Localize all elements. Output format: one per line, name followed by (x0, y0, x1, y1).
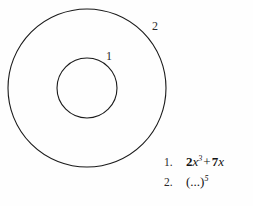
outer-circle-label: 2 (152, 20, 158, 32)
formula-row: 1. 2x3+7x (164, 154, 253, 174)
inner-circle-label: 1 (106, 50, 112, 62)
formula-expression: 2x3+7x (186, 154, 224, 170)
formula-expression: (...)5 (186, 174, 208, 190)
exponent-2: 5 (204, 174, 208, 183)
operator-plus: + (202, 154, 211, 169)
outer-circle (8, 9, 166, 167)
formula-list: 1. 2x3+7x 2. (...)5 (164, 154, 253, 194)
formula-row: 2. (...)5 (164, 174, 253, 194)
ellipsis: ... (190, 174, 200, 189)
variable-2: x (218, 154, 224, 169)
formula-index: 1. (164, 156, 186, 168)
figure-page: 1 2 1. 2x3+7x 2. (...)5 (0, 0, 253, 206)
inner-circle (57, 58, 117, 118)
formula-index: 2. (164, 176, 186, 188)
